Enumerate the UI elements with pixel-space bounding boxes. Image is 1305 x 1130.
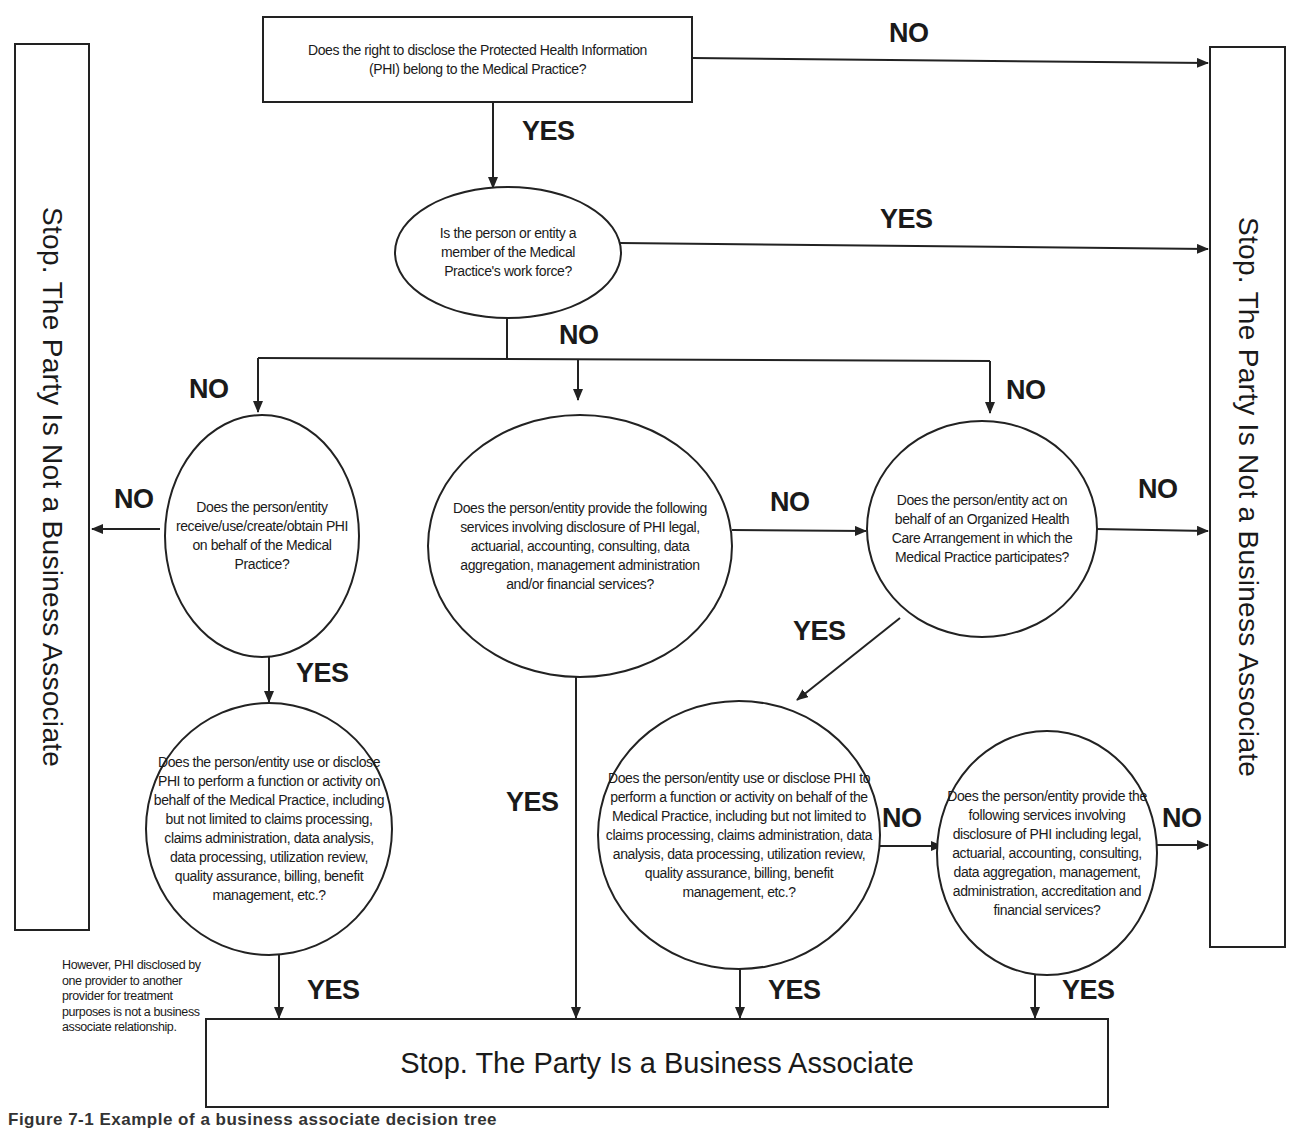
label-q6-yes: YES [307, 977, 360, 1004]
label-q3-no: NO [114, 486, 154, 513]
terminal-not-business-associate-left: Stop. The Party Is Not a Business Associ… [14, 43, 90, 931]
terminal-text: Stop. The Party Is Not a Business Associ… [36, 207, 68, 767]
label-q3-yes: YES [296, 660, 349, 687]
figure-caption: Figure 7-1 Example of a business associa… [8, 1110, 497, 1130]
terminal-text: Stop. The Party Is Not a Business Associ… [1232, 217, 1264, 777]
question-text: Does the person/entity act on behalf of … [880, 491, 1084, 567]
question-perform-function-left: Does the person/entity use or disclose P… [145, 702, 393, 956]
label-q7-no: NO [882, 805, 922, 832]
question-receive-use-phi: Does the person/entity receive/use/creat… [164, 414, 360, 658]
question-text: Is the person or entity a member of the … [416, 224, 600, 281]
question-text: Does the person/entity provide the follo… [441, 499, 719, 594]
question-organized-health-care-arrangement: Does the person/entity act on behalf of … [866, 420, 1098, 638]
label-q2-yes: YES [880, 206, 933, 233]
label-q2-no: NO [559, 322, 599, 349]
terminal-business-associate: Stop. The Party Is a Business Associate [205, 1018, 1109, 1108]
label-q7-yes: YES [768, 977, 821, 1004]
label-q1-no: NO [889, 20, 929, 47]
question-perform-function-right: Does the person/entity use or disclose P… [597, 700, 881, 970]
label-q5-yes: YES [793, 618, 846, 645]
label-branch-right-no: NO [1006, 377, 1046, 404]
question-text: Does the person/entity provide the follo… [946, 787, 1148, 920]
label-q4-no: NO [770, 489, 810, 516]
label-q8-no: NO [1162, 805, 1202, 832]
question-text: Does the right to disclose the Protected… [300, 41, 655, 79]
question-text: Does the person/entity use or disclose P… [153, 753, 385, 905]
question-phi-right-belongs: Does the right to disclose the Protected… [262, 16, 693, 103]
question-text: Does the person/entity use or disclose P… [605, 769, 873, 902]
question-text: Does the person/entity receive/use/creat… [170, 498, 354, 574]
label-branch-left-no: NO [189, 376, 229, 403]
label-q5-no: NO [1138, 476, 1178, 503]
question-provide-services-including: Does the person/entity provide the follo… [936, 730, 1158, 976]
question-provide-services: Does the person/entity provide the follo… [427, 414, 733, 678]
label-q4-yes: YES [506, 789, 559, 816]
label-q8-yes: YES [1062, 977, 1115, 1004]
question-workforce-member: Is the person or entity a member of the … [394, 186, 622, 319]
treatment-exception-note: However, PHI disclosed by one provider t… [62, 958, 202, 1036]
label-q1-yes: YES [522, 118, 575, 145]
terminal-not-business-associate-right: Stop. The Party Is Not a Business Associ… [1209, 46, 1286, 948]
terminal-text: Stop. The Party Is a Business Associate [400, 1047, 914, 1080]
